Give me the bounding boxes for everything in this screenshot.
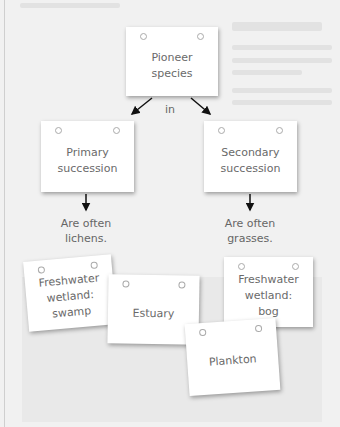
card-freshwater-swamp[interactable]: Freshwaterwetland:swamp: [23, 254, 117, 331]
card-secondary-succession: Secondarysuccession: [204, 121, 297, 192]
card-text: species: [151, 66, 192, 82]
pin-hole-icon: [178, 281, 185, 288]
pin-hole-icon: [199, 329, 206, 336]
caption-text: lichens.: [46, 231, 126, 246]
pin-hole-icon: [197, 33, 204, 40]
pin-hole-icon: [218, 127, 225, 134]
card-text: Secondary: [221, 145, 281, 161]
pin-hole-icon: [276, 127, 283, 134]
pin-hole-icon: [90, 261, 98, 269]
card-text: wetland:: [238, 288, 299, 304]
card-primary-succession: Primarysuccession: [41, 121, 134, 192]
caption-text: Are often: [46, 216, 126, 231]
card-text: succession: [58, 161, 118, 177]
card-text: Plankton: [208, 351, 257, 370]
pin-hole-icon: [38, 266, 46, 274]
card-text: Primary: [58, 145, 118, 161]
caption-secondary: Are often grasses.: [210, 216, 290, 246]
card-text: Estuary: [132, 305, 174, 322]
pin-hole-icon: [292, 263, 299, 270]
pin-hole-icon: [55, 127, 62, 134]
card-text: Pioneer: [151, 50, 192, 66]
card-text: succession: [221, 161, 281, 177]
pin-hole-icon: [113, 127, 120, 134]
card-text: Freshwater: [238, 272, 299, 288]
caption-primary: Are often lichens.: [46, 216, 126, 246]
pin-hole-icon: [255, 325, 262, 332]
card-plankton[interactable]: Plankton: [185, 318, 281, 396]
card-pioneer-species: Pioneerspecies: [126, 27, 218, 96]
pin-hole-icon: [122, 280, 129, 287]
pin-hole-icon: [238, 263, 245, 270]
pin-hole-icon: [140, 33, 147, 40]
caption-text: grasses.: [210, 231, 290, 246]
card-freshwater-bog[interactable]: Freshwaterwetland:bog: [224, 257, 313, 327]
caption-text: Are often: [210, 216, 290, 231]
connector-label-in: in: [162, 102, 178, 117]
